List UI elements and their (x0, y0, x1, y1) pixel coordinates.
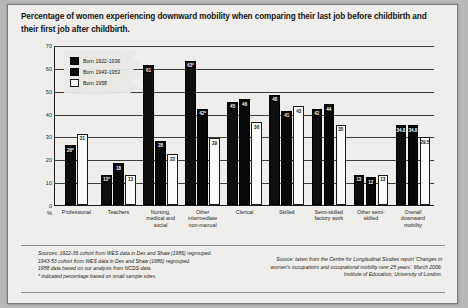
bar: 13* (101, 175, 112, 205)
legend-label: Born 1958 (83, 80, 107, 86)
bar: 44 (324, 104, 335, 205)
chart-figure: Percentage of women experiencing downwar… (7, 4, 458, 304)
bar-value-label: 45 (230, 104, 236, 109)
bar-value-label: 41 (284, 113, 290, 118)
legend-item[interactable]: Born 1922-1936 (70, 55, 140, 66)
x-axis-category-label: Skilled (266, 209, 308, 228)
bar: 13 (354, 175, 365, 205)
bar-value-label: 34.8 (408, 128, 418, 133)
bar: 34.8 (408, 125, 419, 205)
bar: 26* (65, 145, 76, 204)
bar-group: 454636 (224, 46, 266, 205)
sources-note-right: Source: taken from the Centre for Longit… (256, 256, 442, 279)
bar: 12 (366, 177, 377, 204)
bar: 41 (281, 111, 292, 205)
bar-value-label: 46 (242, 102, 248, 107)
legend-swatch (70, 68, 79, 76)
bar-value-label: 22 (170, 157, 175, 162)
bar-value-label: 29.5 (420, 140, 429, 145)
x-axis-category-label: Overall downward mobility (392, 209, 434, 228)
bar: 13 (378, 175, 389, 205)
y-axis-tick-label: 40 (26, 112, 52, 118)
bar-value-label: 35 (338, 127, 343, 132)
x-axis-category-labels: ProfessionalTeachersNursing, medical and… (55, 209, 434, 228)
legend-label: Born 1943-1953 (83, 69, 120, 75)
chart-legend: Born 1922-1936Born 1943-1953Born 1958 (70, 55, 140, 88)
bar-value-label: 48 (272, 97, 278, 102)
y-axis-tick-label: 30 (26, 134, 52, 140)
bar-value-label: 42 (314, 111, 320, 116)
bar-value-label: 13 (128, 177, 133, 182)
bar-value-label: 26* (66, 148, 74, 153)
bar: 61 (143, 65, 154, 204)
bar: 45 (227, 102, 238, 205)
bar-value-label: 13 (356, 177, 362, 182)
bar-value-label: 31 (80, 136, 85, 141)
bar: 36 (251, 122, 262, 204)
bar-group: 612822 (140, 46, 182, 205)
bar: 43 (293, 106, 304, 204)
bar-group: 424435 (308, 46, 350, 205)
bar: 28 (155, 141, 166, 205)
x-axis-category-label: Semi-skilled factory work (308, 209, 350, 228)
y-axis-tick-label: 0 (26, 203, 52, 209)
legend-item[interactable]: Born 1958 (70, 77, 140, 88)
y-axis-tick-label: 20 (26, 157, 52, 163)
bar-value-label: 13 (380, 177, 385, 182)
x-axis-category-label: Nursing, medical and social (140, 209, 182, 228)
bar: 18 (113, 163, 124, 204)
bar: 48 (269, 95, 280, 205)
divider-top (21, 245, 445, 246)
bar-value-label: 34.8 (396, 128, 406, 133)
y-axis-tick-label: 60 (26, 66, 52, 72)
x-axis-category-label: Clerical (224, 209, 266, 228)
bar-value-label: 12 (368, 180, 374, 185)
bar-value-label: 63* (187, 63, 195, 68)
y-axis-tick-label: 70 (26, 43, 52, 49)
bar-group: 131213 (350, 46, 392, 205)
x-axis (54, 205, 434, 206)
x-axis-category-label: Other semi-skilled (350, 209, 392, 228)
legend-label: Born 1922-1936 (83, 58, 120, 64)
bar-value-label: 44 (326, 107, 332, 112)
x-axis-category-label: Professional (55, 209, 97, 228)
bar-group: 484143 (266, 46, 308, 205)
bar-value-label: 36 (254, 125, 259, 130)
bar: 46 (239, 99, 250, 204)
bar-value-label: 18 (115, 166, 121, 171)
legend-item[interactable]: Born 1943-1953 (70, 66, 140, 77)
bar-group: 34.834.829.5 (392, 46, 434, 205)
legend-swatch (70, 79, 79, 87)
sources-note-left: Sources: 1922-36 cohort from WES data in… (38, 250, 243, 280)
bar-value-label: 61 (145, 68, 151, 73)
bar: 31 (77, 134, 88, 205)
bar-value-label: 28 (157, 143, 163, 148)
x-axis-category-label: Other intermediate non-manual (182, 209, 224, 228)
bar: 35 (336, 125, 347, 205)
bar: 42 (312, 109, 323, 205)
bar: 34.8 (396, 125, 407, 205)
y-axis-unit-label: % (26, 210, 52, 216)
bar: 63* (185, 61, 196, 205)
bar: 22 (167, 154, 178, 204)
y-axis-tick-label: 10 (26, 180, 52, 186)
bar-value-label: 42* (199, 111, 207, 116)
bar: 42* (197, 109, 208, 205)
x-axis-category-label: Teachers (97, 209, 139, 228)
bar-group: 63*42*29 (182, 46, 224, 205)
chart-title: Percentage of women experiencing downwar… (21, 11, 441, 36)
legend-swatch (70, 57, 79, 65)
bar-value-label: 13* (103, 177, 111, 182)
bar: 13 (125, 175, 136, 205)
bar: 29.5 (420, 137, 431, 204)
bar-value-label: 43 (296, 109, 301, 114)
bar: 29 (209, 138, 220, 204)
divider-bottom (21, 292, 445, 293)
y-axis-tick-label: 50 (26, 89, 52, 95)
bar-value-label: 29 (212, 141, 217, 146)
